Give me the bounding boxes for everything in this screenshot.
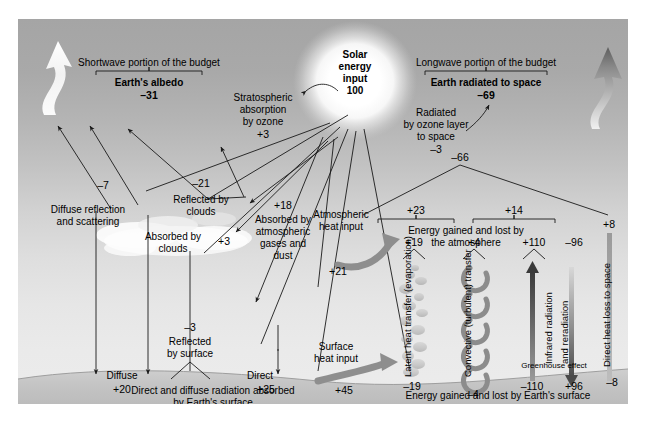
energy-budget-figure: Solar energy input 100 Shortwave portion… [0, 0, 646, 426]
atmosphere-total-value: –66 [451, 152, 469, 164]
surface-heat-input-value: +45 [335, 385, 353, 397]
refl-clouds-line2: clouds [173, 206, 229, 218]
shortwave-heading: Shortwave portion of the budget [78, 57, 220, 69]
convective-top-value: +4 [468, 237, 480, 249]
diffuse-surface-label: Diffuse [107, 370, 138, 382]
ozone-radiated-arrow [466, 105, 489, 131]
abs-gases-line3: gases and [255, 238, 311, 250]
surface-heat-input-label: Surface heat input [314, 341, 358, 365]
albedo-to-space-arrow [42, 41, 72, 115]
branch-left-value: +23 [407, 205, 425, 217]
ahi-line2: heat input [313, 221, 369, 233]
longwave-branch-lines [363, 165, 608, 215]
infrared-up-top-value: +110 [523, 237, 546, 249]
ozone-rad-line1: Radiated [403, 107, 468, 119]
absorbed-clouds-label: Absorbed by clouds [145, 231, 201, 255]
diffuse-reflection-value: –7 [97, 180, 109, 192]
atmospheric-heat-input-value: +21 [329, 266, 347, 278]
direct-surface-label: Direct [247, 370, 273, 382]
absorbed-gases-label: Absorbed by atmospheric gases and dust [255, 214, 311, 262]
refl-surf-line2: by surface [167, 348, 213, 360]
albedo-subheading: Earth's albedo [115, 77, 184, 89]
diffuse-line1: Diffuse reflection [51, 204, 125, 216]
strat-value: +3 [234, 128, 293, 140]
atmosphere-caption: Energy gained and lost by the atmosphere [408, 225, 524, 249]
atmospheric-heat-input-label: Atmospheric heat input [313, 209, 369, 233]
diffuse-surface-value: +20 [113, 384, 131, 396]
abs-clouds-line2: clouds [145, 243, 201, 255]
albedo-value: –31 [140, 90, 158, 102]
strat-line2: absorption [234, 104, 293, 116]
absorbed-gases-value: +18 [274, 200, 292, 212]
direct-heat-loss-vertical-label: Direct heat loss to space [601, 263, 612, 367]
ozone-radiated-label: Radiated by ozone layer to space –3 [403, 107, 468, 155]
abs-gases-line2: atmospheric [255, 226, 311, 238]
ahi-line1: Atmospheric [313, 209, 369, 221]
radiated-subheading: Earth radiated to space [431, 77, 542, 89]
refl-surf-line1: Reflected [167, 336, 213, 348]
surface-absorbed-caption: Direct and diffuse radiation absorbed by… [131, 385, 294, 404]
atm-cap-line1: Energy gained and lost by [408, 225, 524, 237]
longwave-heading: Longwave portion of the budget [416, 57, 556, 69]
diagram-panel: Solar energy input 100 Shortwave portion… [18, 19, 628, 404]
stratospheric-absorption-label: Stratospheric absorption by ozone +3 [234, 92, 293, 140]
sun-line1: Solar [339, 49, 372, 61]
strat-line3: by ozone [234, 116, 293, 128]
reflected-surface-label: Reflected by surface [167, 336, 213, 360]
shi-line2: heat input [314, 353, 358, 365]
shi-line1: Surface [314, 341, 358, 353]
sun-value: 100 [339, 85, 372, 97]
infrared-up-vertical-label: Infrared radiation [543, 292, 554, 364]
surf-abs-line2: by Earth's surface [131, 397, 294, 404]
abs-gases-line4: dust [255, 250, 311, 262]
radiated-value: –69 [477, 90, 495, 102]
ozone-rad-line3: to space [403, 131, 468, 143]
sun-label: Solar energy input 100 [339, 49, 372, 97]
strat-line1: Stratospheric [234, 92, 293, 104]
sun-line2: energy [339, 61, 372, 73]
infrared-down-vertical-label: and reradiation [559, 301, 570, 364]
atmospheric-heat-input-arrow [338, 233, 400, 267]
branch-far-right-value: +8 [603, 219, 615, 231]
absorbed-clouds-value: +3 [218, 236, 230, 248]
refl-clouds-line1: Reflected by [173, 194, 229, 206]
surf-abs-line1: Direct and diffuse radiation absorbed [131, 385, 294, 397]
reflected-surface-value: –3 [184, 322, 196, 334]
sun-line3: input [339, 73, 372, 85]
ozone-rad-line2: by ozone layer [403, 119, 468, 131]
direct-heat-loss-bottom-value: –8 [606, 377, 618, 389]
surface-energy-caption: Energy gained and lost by Earth's surfac… [406, 390, 591, 402]
longwave-to-space-arrow [591, 47, 622, 129]
reflected-clouds-label: Reflected by clouds [173, 194, 229, 218]
greenhouse-effect-label: Greenhouse effect [521, 360, 587, 372]
branch-right-value: +14 [505, 205, 523, 217]
abs-gases-line1: Absorbed by [255, 214, 311, 226]
column-chevrons [403, 249, 545, 259]
reflected-clouds-value: –21 [192, 178, 210, 190]
abs-clouds-line1: Absorbed by [145, 231, 201, 243]
infrared-down-top-value: –96 [565, 237, 583, 249]
diffuse-line2: and scattering [51, 216, 125, 228]
atm-cap-line2: the atmosphere [408, 237, 524, 249]
latent-heat-vertical-label: Latent heat transfer (evaporation) [402, 236, 413, 377]
diffuse-reflection-label: Diffuse reflection and scattering [51, 204, 125, 228]
convective-vertical-label: Convective (turbulent) transfer [462, 249, 473, 377]
